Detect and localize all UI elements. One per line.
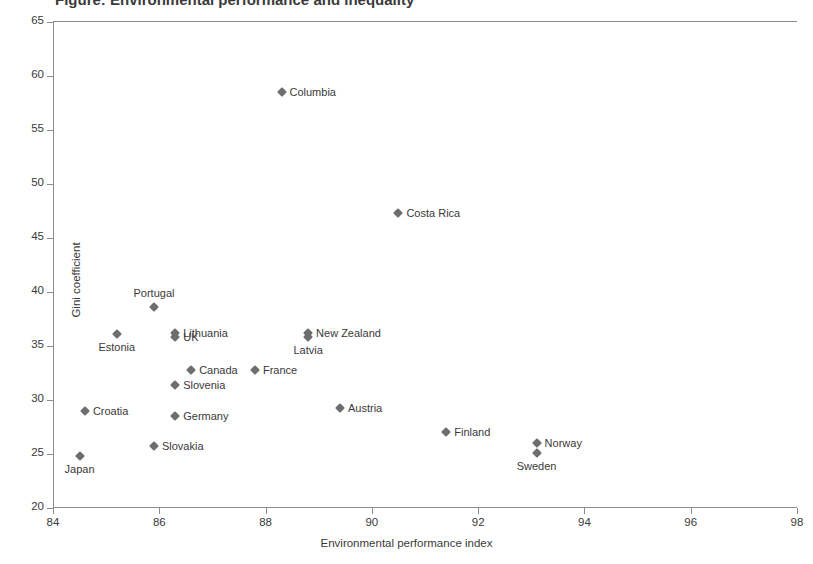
y-axis-tick-label: 35 (0, 338, 44, 350)
data-point-label: New Zealand (316, 327, 381, 339)
x-axis-tick (797, 508, 798, 514)
x-axis-tick-label: 90 (352, 516, 392, 528)
x-axis-tick (584, 508, 585, 514)
data-point-label: Finland (454, 426, 490, 438)
y-axis-tick-label: 20 (0, 500, 44, 512)
y-axis-tick (47, 238, 53, 239)
y-axis-tick-label: 25 (0, 446, 44, 458)
data-point-label: Estonia (98, 341, 135, 353)
data-point-label: France (263, 364, 297, 376)
y-axis-tick-label: 60 (0, 68, 44, 80)
data-point-label: Croatia (93, 405, 128, 417)
data-point-label: Sweden (517, 460, 557, 472)
cropped-title-strip: Figure: Environmental performance and in… (0, 0, 813, 12)
data-point-label: Germany (183, 410, 228, 422)
x-axis-tick-label: 98 (777, 516, 813, 528)
y-axis-tick (47, 184, 53, 185)
y-axis-tick (47, 400, 53, 401)
y-axis-tick-label: 50 (0, 176, 44, 188)
y-axis-tick (47, 22, 53, 23)
y-axis-tick (47, 76, 53, 77)
data-point-label: UK (183, 331, 198, 343)
y-axis-tick-label: 45 (0, 230, 44, 242)
data-point-label: Latvia (293, 344, 322, 356)
x-axis-tick (266, 508, 267, 514)
x-axis-tick (372, 508, 373, 514)
x-axis-tick-label: 88 (246, 516, 286, 528)
x-axis-tick (691, 508, 692, 514)
data-point-label: Slovakia (162, 440, 204, 452)
y-axis-tick-label: 65 (0, 14, 44, 26)
data-point-label: Norway (545, 437, 582, 449)
y-axis-tick (47, 292, 53, 293)
y-axis-tick-label: 30 (0, 392, 44, 404)
plot-area: Gini coefficient (53, 22, 797, 508)
y-axis-tick-label: 55 (0, 122, 44, 134)
data-point-label: Columbia (290, 86, 336, 98)
scatter-chart-figure: Figure: Environmental performance and in… (0, 0, 813, 564)
x-axis-tick (53, 508, 54, 514)
y-axis-tick-label: 40 (0, 284, 44, 296)
x-axis-tick (478, 508, 479, 514)
y-axis-tick (47, 454, 53, 455)
y-axis-tick (47, 346, 53, 347)
data-point-label: Costa Rica (406, 207, 460, 219)
data-point-label: Japan (65, 463, 95, 475)
x-axis-tick-label: 86 (139, 516, 179, 528)
x-axis-tick (159, 508, 160, 514)
data-point-label: Slovenia (183, 379, 225, 391)
data-point-label: Austria (348, 402, 382, 414)
x-axis-tick-label: 84 (33, 516, 73, 528)
y-axis-label: Gini coefficient (70, 170, 82, 390)
data-point-label: Canada (199, 364, 238, 376)
figure-title: Figure: Environmental performance and in… (55, 0, 414, 8)
data-point-label: Portugal (133, 287, 174, 299)
x-axis-tick-label: 96 (671, 516, 711, 528)
x-axis-label: Environmental performance index (0, 537, 813, 549)
y-axis-tick (47, 130, 53, 131)
x-axis-tick-label: 92 (458, 516, 498, 528)
x-axis-tick-label: 94 (564, 516, 604, 528)
